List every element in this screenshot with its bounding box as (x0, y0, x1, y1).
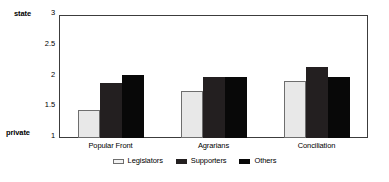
bars-layer (59, 15, 368, 138)
bar-legislators-conciliation (284, 81, 306, 138)
bar-group (78, 15, 144, 138)
y-axis-tick: 3 (0, 15, 64, 16)
x-axis-category-label: Conciliation (265, 142, 368, 150)
y-axis-tick-label: 2.5 (45, 40, 55, 48)
bar-supporters-conciliation (306, 67, 328, 138)
legend-item-others: Others (239, 157, 276, 165)
legend-item-supporters: Supporters (176, 157, 227, 165)
bar-group (181, 15, 247, 138)
legend-swatch-supporters (176, 159, 187, 164)
bar-others-conciliation (328, 77, 350, 139)
bar-supporters-agrarians (203, 77, 225, 139)
legend-swatch-others (239, 159, 250, 164)
bar-chart: state private 11.522.53 Popular FrontAgr… (0, 0, 389, 182)
legend-label: Legislators (128, 157, 163, 165)
y-axis-tick: 1 (0, 138, 64, 139)
legend-swatch-legislators (113, 159, 124, 164)
x-axis-category-label: Agrarians (162, 142, 265, 150)
bar-supporters-popular-front (100, 83, 122, 138)
y-axis-tick-label: 1 (51, 132, 55, 140)
y-axis-tick-label: 1.5 (45, 101, 55, 109)
bar-legislators-popular-front (78, 110, 100, 138)
y-axis-tick: 2 (0, 77, 64, 78)
y-axis-tick-label: 2 (51, 71, 55, 79)
legend-label: Others (254, 157, 276, 165)
legend-item-legislators: Legislators (113, 157, 163, 165)
y-axis-top-label: state (14, 10, 31, 18)
bar-others-popular-front (122, 75, 144, 138)
bar-others-agrarians (225, 77, 247, 139)
chart-legend: LegislatorsSupportersOthers (0, 157, 389, 165)
y-axis-tick: 1.5 (0, 107, 64, 108)
bar-group (284, 15, 350, 138)
x-axis-category-label: Popular Front (59, 142, 162, 150)
y-axis-tick-label: 3 (51, 9, 55, 17)
y-axis-tick: 2.5 (0, 46, 64, 47)
bar-legislators-agrarians (181, 91, 203, 138)
y-axis-bottom-label: private (6, 129, 30, 137)
legend-label: Supporters (191, 157, 227, 165)
